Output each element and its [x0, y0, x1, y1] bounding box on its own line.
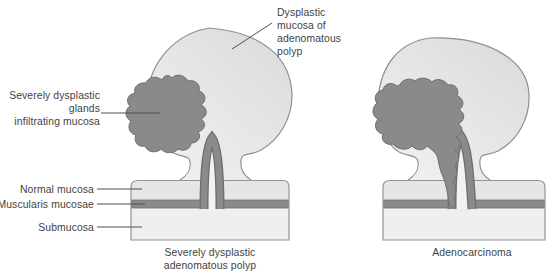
label-muscularis-mucosae: Muscularis mucosae [0, 198, 94, 211]
muscularis-mucosae-layer [221, 200, 288, 208]
label-dysplastic-glands: Severely dysplastic glands infiltrating … [9, 89, 100, 128]
muscularis-mucosae-layer [384, 200, 453, 208]
label-submucosa: Submucosa [38, 221, 94, 234]
dysplastic-glands-blob [126, 75, 206, 153]
caption-right-panel: Adenocarcinoma [391, 246, 553, 259]
submucosa-layer [384, 208, 545, 239]
caption-left-panel: Severely dysplastic adenomatous polyp [131, 246, 289, 272]
right-panel [373, 38, 545, 240]
figure-canvas: Dysplastic mucosa of adenomatous polyp S… [0, 0, 556, 277]
label-dysplastic-mucosa: Dysplastic mucosa of adenomatous polyp [277, 6, 341, 58]
muscularis-mucosae-layer [471, 200, 544, 208]
left-panel [126, 28, 292, 240]
submucosa-layer [132, 208, 289, 239]
label-normal-mucosa: Normal mucosa [20, 183, 94, 196]
